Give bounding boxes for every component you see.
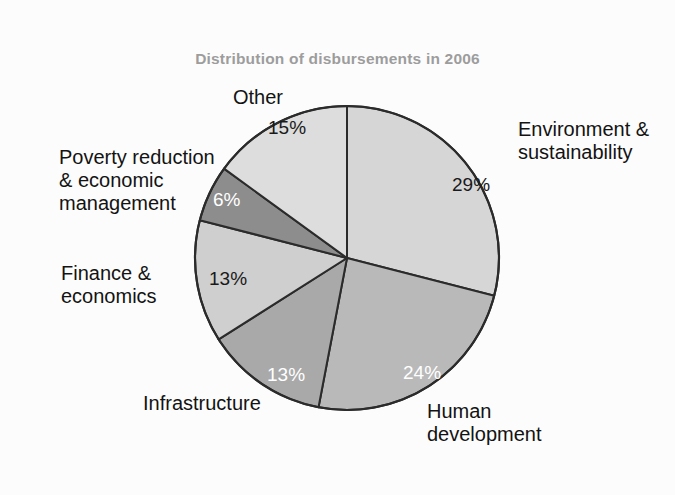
category-label-line: Other <box>233 86 283 109</box>
category-label-human-development: Human development <box>427 400 542 446</box>
pie-slices <box>195 106 499 410</box>
category-label-infrastructure: Infrastructure <box>143 392 261 415</box>
slice-value-finance-economics: 13% <box>209 268 247 290</box>
category-label-line: Human <box>427 400 542 423</box>
category-label-line: economics <box>61 285 157 308</box>
pie-chart <box>0 0 675 495</box>
category-label-line: development <box>427 423 542 446</box>
chart-page: Distribution of disbursements in 2006 29… <box>0 0 675 495</box>
category-label-poverty-reduction: Poverty reduction & economic management <box>59 146 215 216</box>
category-label-line: Finance & <box>61 262 157 285</box>
category-label-line: Poverty reduction <box>59 146 215 169</box>
category-label-line: sustainability <box>518 141 649 164</box>
category-label-line: Environment & <box>518 118 649 141</box>
slice-value-infrastructure: 13% <box>267 364 305 386</box>
category-label-other: Other <box>233 86 283 109</box>
slice-value-poverty-reduction: 6% <box>213 189 240 211</box>
category-label-line: management <box>59 192 215 215</box>
slice-value-environment-sustainability: 29% <box>452 174 490 196</box>
category-label-line: & economic <box>59 169 215 192</box>
slice-value-other: 15% <box>268 117 306 139</box>
slice-value-human-development: 24% <box>403 362 441 384</box>
category-label-line: Infrastructure <box>143 392 261 415</box>
category-label-environment-sustainability: Environment & sustainability <box>518 118 649 164</box>
category-label-finance-economics: Finance & economics <box>61 262 157 308</box>
